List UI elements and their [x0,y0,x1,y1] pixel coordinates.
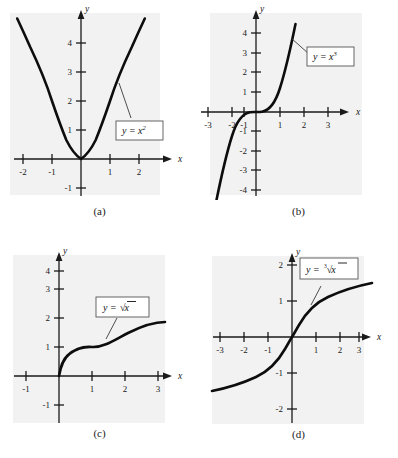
panel-a-xtick-label: -1 [48,167,56,177]
panel-c-xtick-label: 2 [123,384,128,394]
panel-b-xtick-label: 1 [278,120,283,130]
panel-b-ytick-label: -4 [240,185,248,195]
panel-c-caption: (c) [0,427,199,439]
panel-c-ytick-label: 2 [46,313,51,323]
panel-d-plot: x y -3 -2 -1 1 2 3 -2 -1 [199,229,398,429]
panel-c-label-lhs: y [102,302,108,313]
panel-c-xtick-label: -1 [22,384,30,394]
panel-a-label-eq: = [129,125,135,136]
panel-d-label-eq: = [313,264,319,275]
figure-grid: x y -2 -1 1 2 -1 1 2 [0,0,398,458]
panel-b-xtick-label: -3 [204,120,212,130]
panel-b-y-axis-name: y [259,4,265,14]
panel-a-ytick-label: 3 [68,67,73,77]
panel-a-ytick-label: 4 [68,38,73,48]
panel-c-ytick-label: 1 [46,342,51,352]
panel-d-xtick-label: 3 [357,345,362,355]
panel-a-ytick-label: 1 [68,125,73,135]
panel-b-label-eq: = [320,51,326,62]
panel-d-ytick-label: 1 [279,296,284,306]
panel-b-ytick-label: -2 [240,146,248,156]
panel-b-label-lhs: y [312,51,318,62]
panel-b-function-label: y=x3 [307,47,354,66]
panel-d-function-label: y=3√x [300,258,358,279]
panel-a-x-axis-name: x [177,154,183,164]
panel-c-y-axis [56,252,63,423]
panel-a-xtick-label: -2 [19,167,27,177]
panel-d-label-radicand: x [330,264,336,275]
panel-d-ytick-label: 2 [279,260,284,270]
panel-a-xtick-label: 2 [137,167,142,177]
panel-b-ytick-label: 1 [243,87,248,97]
panel-b-ytick-label: -3 [240,165,248,175]
panel-c: x y -1 1 2 3 -1 1 2 3 4 [0,229,199,458]
panel-d-xtick-label: 2 [338,345,343,355]
panel-b-xtick-label: 3 [326,120,331,130]
panel-c-xtick-label: 1 [90,384,95,394]
panel-c-x-axis-name: x [177,371,183,381]
panel-d-ytick-label: -1 [276,368,284,378]
panel-a-ytick-label: 2 [68,96,73,106]
panel-c-function-label: y=√x [96,297,149,317]
panel-a-xtick-label: 1 [108,167,113,177]
panel-d-xtick-label: -2 [240,345,248,355]
panel-d-xtick-label: -3 [216,345,224,355]
panel-d-x-axis-name: x [376,332,382,342]
panel-c-xtick-label: 3 [156,384,161,394]
panel-b-y-axis [253,10,260,196]
panel-b-leader-line [291,38,309,54]
panel-c-x-axis [14,373,172,380]
panel-c-ytick-label: -1 [43,400,51,410]
panel-b-ytick-label: 3 [243,48,248,58]
svg-text:y=√x: y=√x [102,302,130,313]
panel-b-ytick-label: -1 [240,126,248,136]
panel-d-y-axis-name: y [295,247,301,257]
panel-d-label-lhs: y [305,264,311,275]
panel-d-ytick-label: -2 [276,404,284,414]
panel-b-ytick-label: 2 [243,67,248,77]
panel-a-x-axis [14,156,172,163]
panel-c-ytick-label: 4 [46,266,51,276]
panel-d-xtick-label: 1 [314,345,319,355]
panel-b-ytick-label: 4 [243,28,248,38]
panel-c-plot: x y -1 1 2 3 -1 1 2 3 4 [0,229,199,429]
panel-c-label-radicand: x [124,302,130,313]
panel-a-function-label: y=x2 [116,121,163,140]
panel-a-ytick-label: -1 [65,183,73,193]
panel-a-label-lhs: y [121,125,127,136]
panel-a-leader-line [119,83,131,118]
panel-a-y-axis [78,10,85,196]
panel-b-caption: (b) [199,205,398,217]
panel-d-caption: (d) [199,428,398,440]
panel-d: x y -3 -2 -1 1 2 3 -2 -1 [199,229,398,458]
panel-c-leader-line [106,318,117,339]
panel-d-xtick-label: -1 [264,345,272,355]
panel-c-ytick-label: 3 [46,284,51,294]
panel-b: x y -3 -2 -1 1 2 3 [199,0,398,229]
panel-b-plot: x y -3 -2 -1 1 2 3 [199,0,398,200]
panel-b-x-axis [201,109,349,116]
panel-a: x y -2 -1 1 2 -1 1 2 [0,0,199,229]
panel-c-curve [59,322,165,376]
panel-a-plot: x y -2 -1 1 2 -1 1 2 [0,0,199,200]
panel-a-caption: (a) [0,205,199,217]
panel-a-y-axis-name: y [84,4,90,14]
panel-b-x-axis-name: x [355,107,361,117]
panel-b-xtick-label: 2 [302,120,307,130]
panel-c-y-axis-name: y [62,246,68,256]
panel-c-label-eq: = [110,302,116,313]
